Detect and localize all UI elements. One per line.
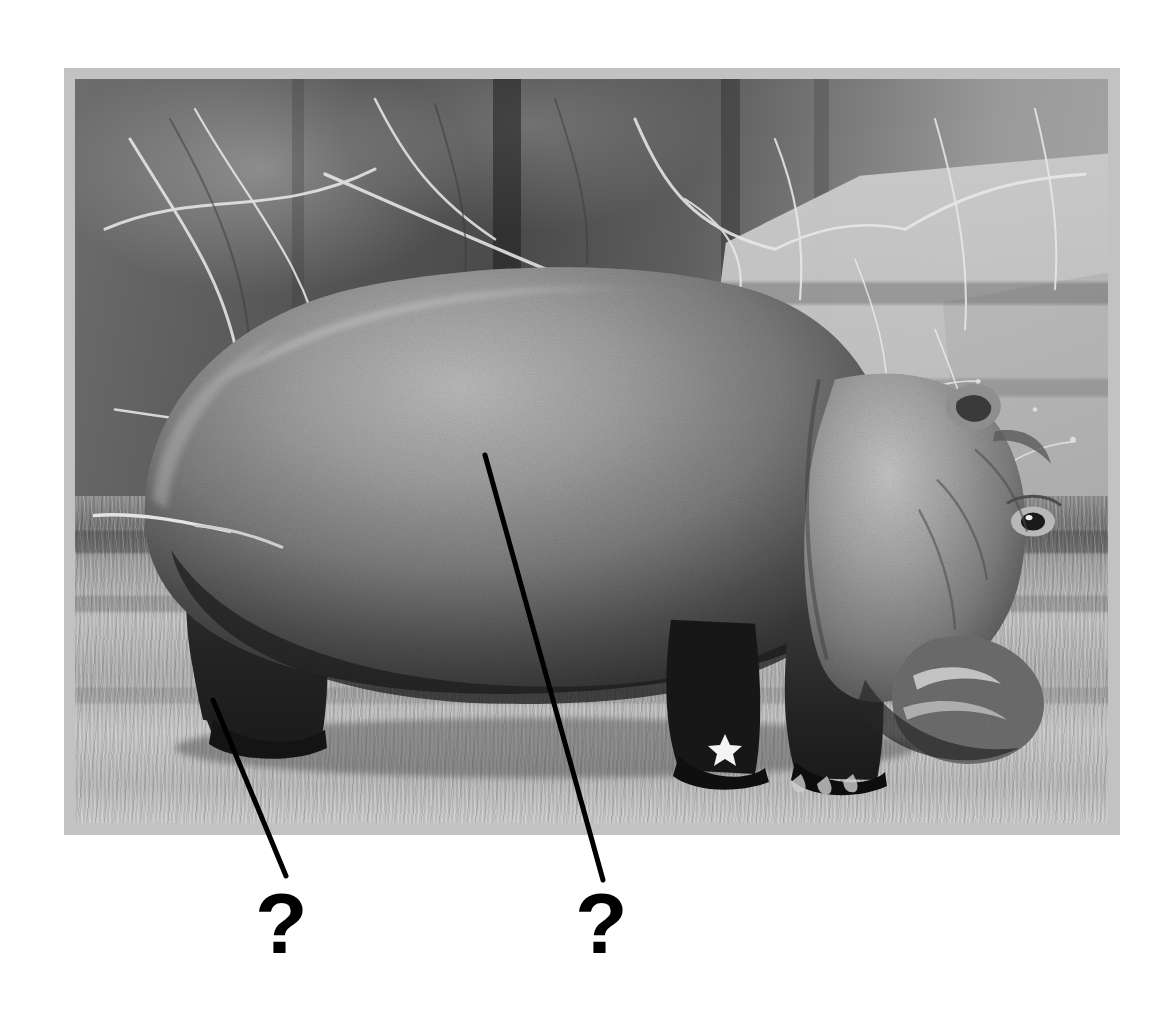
hippopotamus: [75, 79, 1108, 823]
label-question-mark-2[interactable]: ?: [575, 880, 628, 966]
anatomy-worksheet: ? ?: [0, 0, 1172, 1025]
label-question-mark-1[interactable]: ?: [255, 880, 308, 966]
hippopotamus-photograph: [75, 79, 1108, 823]
hippo-foreleg-rear: [666, 620, 760, 774]
photo-frame: [64, 68, 1120, 835]
